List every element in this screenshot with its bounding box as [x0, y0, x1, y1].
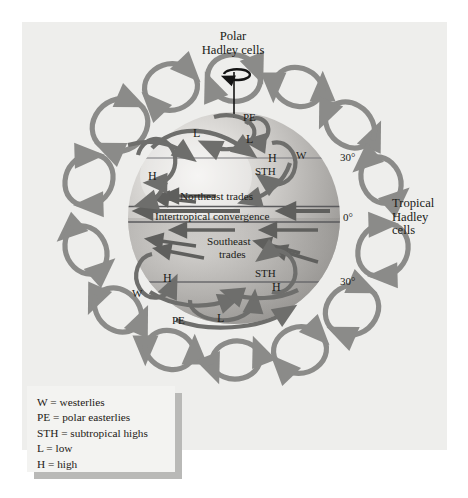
cell-arc-lower	[77, 154, 120, 210]
tropical-hadley-cells-title: TropicalHadleycells	[392, 197, 434, 238]
ring-cell-5	[316, 91, 384, 159]
ring-cell-13	[267, 318, 333, 381]
w-north-label: W	[296, 150, 306, 162]
ring-cell-8	[58, 219, 113, 282]
legend-list: W = westerliesPE = polar easterliesSTH =…	[27, 386, 175, 472]
polar-title-line1: Polar	[220, 29, 247, 43]
cell-arc-lower	[325, 92, 384, 151]
intertropical-convergence-label: Intertropical convergence	[155, 210, 269, 222]
cell-arc-upper	[94, 278, 151, 335]
h-north-east-label: H	[268, 152, 277, 165]
northeast-trades-label: Northeast trades	[180, 190, 253, 202]
h-south-west-label: H	[163, 272, 172, 285]
cell-arc-upper	[138, 57, 194, 101]
south-30-label: 30°	[340, 276, 355, 288]
ring-cell-3	[268, 60, 329, 114]
w-south-label: W	[132, 288, 142, 300]
figure-root: PolarHadley cells TropicalHadleycells No…	[0, 0, 468, 498]
legend-entry: L = low	[37, 441, 175, 456]
pe-north-label: PE	[243, 112, 256, 124]
ring-cell-14	[211, 341, 261, 379]
ring-cell-6	[58, 147, 120, 212]
pe-south-label: PE	[172, 315, 185, 327]
cell-arc-lower	[148, 73, 204, 117]
ring-cell-2	[138, 56, 204, 119]
cell-arc-upper	[277, 336, 333, 380]
legend-box: W = westerliesPE = polar easterliesSTH =…	[27, 386, 175, 472]
cell-arc-upper	[82, 89, 141, 148]
legend-entry: W = westerlies	[37, 395, 175, 410]
polar-title-line2: Hadley cells	[202, 43, 265, 57]
cell-arc-upper	[58, 150, 101, 206]
cell-arc-lower	[211, 73, 260, 101]
h-north-west-label: H	[148, 170, 157, 183]
tropical-title-line2: Hadley	[392, 210, 428, 224]
sth-north-label: STH	[255, 166, 276, 178]
cell-arc-lower	[99, 101, 158, 160]
cell-arc-lower	[351, 219, 396, 277]
l-north-main-label: L	[193, 127, 200, 140]
sth-south-label: STH	[255, 268, 276, 280]
cell-arc-lower	[267, 320, 323, 364]
southeast-trades-2-label: trades	[219, 248, 246, 260]
legend: W = westerliesPE = polar easterliesSTH =…	[27, 386, 177, 475]
h-south-east-label: H	[272, 281, 281, 294]
ring-cell-12	[140, 323, 201, 377]
l-north-small-label: L	[246, 133, 253, 146]
legend-entry: STH = subtropical highs	[37, 426, 175, 441]
polar-hadley-cells-title: PolarHadley cells	[173, 30, 293, 57]
cell-arc-upper	[316, 99, 375, 158]
north-30-label: 30°	[340, 152, 355, 164]
cell-arc-upper	[332, 287, 389, 344]
cell-arc-upper	[212, 341, 261, 369]
legend-entry: PE = polar easterlies	[37, 410, 175, 425]
equator-label: 0°	[343, 212, 353, 224]
cell-arc-lower	[211, 351, 260, 379]
rotation-arrow-icon	[224, 69, 250, 80]
tropical-title-line3: cells	[392, 223, 415, 237]
legend-entry: H = high	[37, 457, 175, 472]
tropical-title-line1: Tropical	[392, 196, 434, 210]
southeast-trades-1-label: Southeast	[207, 235, 251, 247]
l-south-label: L	[217, 312, 224, 325]
